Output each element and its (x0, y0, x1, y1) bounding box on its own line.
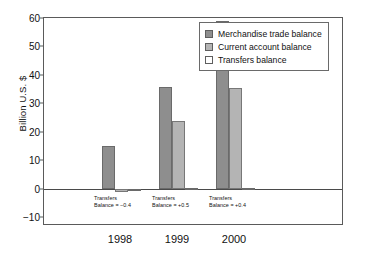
bar (229, 88, 242, 189)
y-tick-mark (40, 74, 44, 75)
y-tick-label: 50 (29, 41, 40, 52)
bar (242, 188, 255, 190)
y-tick-mark (40, 46, 44, 47)
group-annotation: TransfersBalance = +0.5 (152, 195, 189, 210)
annotation-line-2: Balance = +0.5 (152, 202, 189, 210)
y-axis-title: Billion U.S. $ (17, 49, 28, 159)
x-tick-label: 1998 (108, 233, 132, 245)
bar (102, 146, 115, 189)
bar (172, 121, 185, 189)
annotation-line-1: Transfers (94, 195, 131, 203)
group-annotation: TransfersBalance = +0.4 (209, 195, 246, 210)
bar (159, 87, 172, 189)
y-tick-label: 30 (29, 98, 40, 109)
bar (185, 188, 198, 190)
y-tick-mark (40, 18, 44, 19)
legend-item-label: Current account balance (218, 42, 312, 52)
y-tick-mark (40, 160, 44, 161)
y-tick-label: 40 (29, 69, 40, 80)
legend-swatch-icon (205, 56, 213, 64)
y-tick-label: −10 (23, 212, 40, 223)
bar-chart: Billion U.S. $ 6050403020100−10 Transfer… (0, 0, 366, 268)
legend-item: Current account balance (205, 40, 322, 53)
legend-item: Transfers balance (205, 53, 322, 66)
x-tick-label: 2000 (222, 233, 246, 245)
bar (115, 189, 128, 192)
legend-swatch-icon (205, 30, 213, 38)
legend-item-label: Transfers balance (218, 55, 286, 65)
annotation-line-2: Balance = −0.4 (94, 202, 131, 210)
y-tick-mark (40, 217, 44, 218)
x-tick-label: 1999 (165, 233, 189, 245)
legend-swatch-icon (205, 43, 213, 51)
annotation-line-2: Balance = +0.4 (209, 202, 246, 210)
y-tick-label: 20 (29, 126, 40, 137)
legend-item: Merchandise trade balance (205, 27, 322, 40)
y-tick-label: 60 (29, 13, 40, 24)
y-tick-mark (40, 103, 44, 104)
y-tick-label: 10 (29, 155, 40, 166)
y-tick-mark (40, 131, 44, 132)
annotation-line-1: Transfers (152, 195, 189, 203)
chart-legend: Merchandise trade balanceCurrent account… (199, 22, 329, 71)
group-annotation: TransfersBalance = −0.4 (94, 195, 131, 210)
annotation-line-1: Transfers (209, 195, 246, 203)
legend-item-label: Merchandise trade balance (218, 29, 322, 39)
bar (128, 189, 141, 191)
